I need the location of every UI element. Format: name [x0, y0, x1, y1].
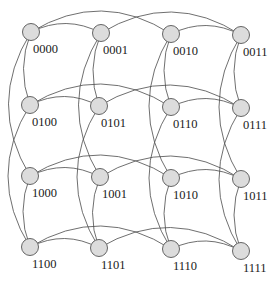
node-label-0010: 0010 — [173, 44, 198, 58]
node-label-1001: 1001 — [102, 187, 127, 201]
node-label-1000: 1000 — [32, 186, 57, 200]
node-0010 — [163, 26, 180, 43]
node-1001 — [92, 169, 109, 186]
node-label-0110: 0110 — [173, 117, 198, 131]
node-0000 — [23, 24, 40, 41]
edge-1000-1001 — [30, 167, 100, 177]
node-label-0000: 0000 — [33, 42, 58, 56]
node-label-0101: 0101 — [101, 116, 126, 130]
node-label-1010: 1010 — [173, 188, 198, 202]
node-label-0111: 0111 — [243, 118, 267, 132]
hypercube-diagram: 0000000100100011010001010110011110001001… — [0, 0, 279, 287]
edge-0000-0001 — [31, 23, 101, 33]
node-1111 — [233, 243, 250, 260]
edge-1010-1011 — [171, 169, 241, 179]
edge-0100-0101 — [30, 96, 99, 106]
node-1101 — [91, 240, 108, 257]
node-label-1111: 1111 — [243, 261, 267, 275]
edge-1001-1101 — [92, 177, 100, 248]
node-label-0100: 0100 — [32, 115, 57, 129]
node-0011 — [233, 27, 250, 44]
node-label-1011: 1011 — [243, 189, 268, 203]
node-1010 — [163, 170, 180, 187]
nodes-layer — [22, 24, 250, 260]
edge-0010-0011 — [171, 25, 241, 35]
edge-1110-1111 — [171, 241, 241, 251]
node-0100 — [22, 97, 39, 114]
node-label-1100: 1100 — [32, 257, 57, 271]
node-1000 — [22, 168, 39, 185]
node-0110 — [163, 99, 180, 116]
edge-0001-0101 — [93, 33, 101, 106]
node-0001 — [93, 25, 110, 42]
node-1110 — [163, 241, 180, 258]
node-label-0011: 0011 — [243, 45, 268, 59]
edge-0110-0111 — [171, 98, 241, 108]
node-label-1101: 1101 — [101, 258, 126, 272]
labels-layer: 0000000100100011010001010110011110001001… — [32, 42, 268, 275]
node-label-1110: 1110 — [173, 259, 197, 273]
node-label-0001: 0001 — [103, 43, 128, 57]
node-0101 — [91, 98, 108, 115]
node-0111 — [233, 100, 250, 117]
node-1011 — [233, 171, 250, 188]
edge-1100-1101 — [30, 238, 99, 248]
node-1100 — [22, 239, 39, 256]
